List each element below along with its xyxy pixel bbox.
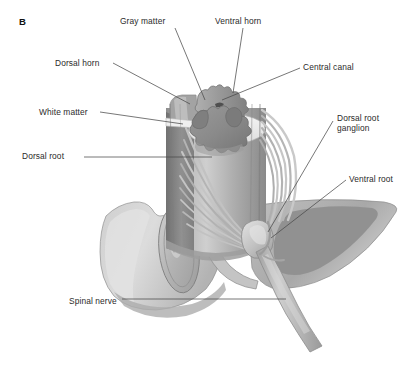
leader-gray-matter	[175, 28, 205, 100]
label-ventral-horn: Ventral horn	[215, 16, 261, 26]
label-dorsal-root-ganglion: Dorsal root ganglion	[337, 113, 379, 133]
spinal-cord-upper-block-highlight	[174, 97, 188, 121]
label-spinal-nerve: Spinal nerve	[69, 296, 117, 306]
label-central-canal: Central canal	[303, 62, 354, 72]
label-white-matter: White matter	[39, 107, 88, 117]
figure-spinal-cord-panel-b: B Gray matterVentral hornDorsal hornCent…	[0, 0, 417, 366]
label-dorsal-root: Dorsal root	[22, 151, 64, 161]
label-dorsal-horn: Dorsal horn	[55, 58, 99, 68]
leader-dorsal-horn	[113, 63, 190, 104]
panel-letter-b: B	[19, 16, 26, 27]
label-ventral-root: Ventral root	[349, 174, 393, 184]
label-gray-matter: Gray matter	[120, 16, 165, 26]
leader-ventral-horn	[233, 28, 243, 93]
leader-central-canal	[222, 68, 300, 100]
ventral-horn-shape	[226, 107, 242, 126]
